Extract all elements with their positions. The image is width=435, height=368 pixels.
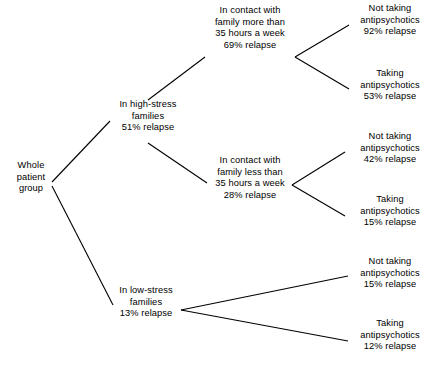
node-contact-less-line-3: 35 hours a week	[205, 178, 295, 190]
node-low-stress-line-3: 13% relapse	[110, 308, 182, 320]
node-contact-more-line-4: 69% relapse	[205, 40, 295, 52]
node-whole-patient-group: Whole patient group	[8, 160, 54, 195]
node-leaf-more-taking-line-1: Taking	[348, 68, 432, 80]
node-contact-more-line-2: family more than	[205, 17, 295, 29]
node-leaf-low-not-taking-line-1: Not taking	[348, 256, 432, 268]
node-root-line-3: group	[8, 183, 54, 195]
edge-contact-more-to-not-taking	[295, 25, 349, 57]
node-root-line-2: patient	[8, 172, 54, 184]
node-leaf-more-taking: Taking antipsychotics 53% relapse	[348, 68, 432, 103]
node-leaf-less-not-taking-line-3: 42% relapse	[348, 154, 432, 166]
edge-root-to-low-stress	[52, 186, 113, 305]
node-leaf-more-taking-line-2: antipsychotics	[348, 80, 432, 92]
node-high-stress-line-1: In high-stress	[103, 99, 193, 111]
node-leaf-low-not-taking-line-2: antipsychotics	[348, 268, 432, 280]
node-leaf-less-not-taking-line-1: Not taking	[348, 131, 432, 143]
node-low-stress-families: In low-stress families 13% relapse	[110, 285, 182, 320]
node-leaf-low-taking-line-3: 12% relapse	[348, 341, 432, 353]
node-contact-more-line-3: 35 hours a week	[205, 28, 295, 40]
node-leaf-low-not-taking-line-3: 15% relapse	[348, 279, 432, 291]
node-contact-more-than-35-hours: In contact with family more than 35 hour…	[205, 5, 295, 51]
edge-high-stress-to-contact-less	[148, 143, 207, 183]
node-contact-less-line-2: family less than	[205, 167, 295, 179]
node-low-stress-line-2: families	[110, 297, 182, 309]
edge-contact-less-to-not-taking	[292, 152, 345, 185]
node-leaf-more-not-taking-line-2: antipsychotics	[348, 15, 432, 27]
node-leaf-more-not-taking-line-1: Not taking	[348, 3, 432, 15]
node-contact-less-line-1: In contact with	[205, 155, 295, 167]
edge-low-stress-to-not-taking	[181, 276, 348, 310]
node-leaf-less-taking-line-2: antipsychotics	[348, 206, 432, 218]
edge-root-to-high-stress	[52, 121, 110, 182]
node-low-stress-line-1: In low-stress	[110, 285, 182, 297]
edge-contact-less-to-taking	[292, 185, 345, 216]
node-contact-more-line-1: In contact with	[205, 5, 295, 17]
node-contact-less-line-4: 28% relapse	[205, 190, 295, 202]
edge-contact-more-to-taking	[295, 57, 349, 89]
node-leaf-less-not-taking-line-2: antipsychotics	[348, 143, 432, 155]
relapse-tree-diagram: Whole patient group In high-stress famil…	[0, 0, 435, 368]
node-leaf-less-taking: Taking antipsychotics 15% relapse	[348, 194, 432, 229]
node-high-stress-families: In high-stress families 51% relapse	[103, 99, 193, 134]
edge-low-stress-to-taking	[181, 310, 348, 341]
node-leaf-low-taking: Taking antipsychotics 12% relapse	[348, 318, 432, 353]
node-leaf-less-taking-line-3: 15% relapse	[348, 217, 432, 229]
node-high-stress-line-2: families	[103, 111, 193, 123]
node-leaf-low-taking-line-1: Taking	[348, 318, 432, 330]
node-leaf-more-taking-line-3: 53% relapse	[348, 91, 432, 103]
node-leaf-more-not-taking: Not taking antipsychotics 92% relapse	[348, 3, 432, 38]
node-leaf-low-not-taking: Not taking antipsychotics 15% relapse	[348, 256, 432, 291]
node-leaf-less-taking-line-1: Taking	[348, 194, 432, 206]
edge-high-stress-to-contact-more	[148, 57, 205, 100]
node-root-line-1: Whole	[8, 160, 54, 172]
node-contact-less-than-35-hours: In contact with family less than 35 hour…	[205, 155, 295, 201]
node-leaf-less-not-taking: Not taking antipsychotics 42% relapse	[348, 131, 432, 166]
node-leaf-more-not-taking-line-3: 92% relapse	[348, 26, 432, 38]
node-high-stress-line-3: 51% relapse	[103, 122, 193, 134]
node-leaf-low-taking-line-2: antipsychotics	[348, 330, 432, 342]
